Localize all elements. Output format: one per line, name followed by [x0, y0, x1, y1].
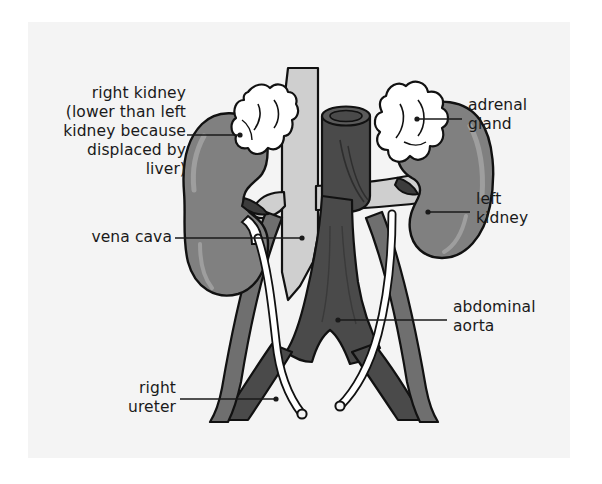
figure-root: right kidney (lower than left kidney bec… — [0, 0, 602, 484]
left-ureter-open-end — [335, 401, 344, 410]
label-adrenal-gland: adrenal gland — [468, 96, 588, 134]
leader-dot-left-kidney — [425, 209, 430, 214]
leader-dot-right-kidney — [237, 132, 242, 137]
leader-dot-vena-cava — [299, 235, 304, 240]
label-right-kidney: right kidney (lower than left kidney bec… — [34, 84, 186, 179]
leader-dot-right-ureter — [273, 396, 278, 401]
label-left-kidney: left kidney — [476, 190, 586, 228]
label-vena-cava: vena cava — [44, 228, 172, 247]
right-ureter-open-end — [297, 409, 306, 418]
aorta-cut-lumen — [330, 111, 362, 122]
leader-dot-adrenal-gland — [414, 116, 419, 121]
label-abdominal-aorta: abdominal aorta — [453, 298, 583, 336]
label-right-ureter: right ureter — [60, 379, 176, 417]
leader-dot-abdominal-aorta — [335, 317, 340, 322]
